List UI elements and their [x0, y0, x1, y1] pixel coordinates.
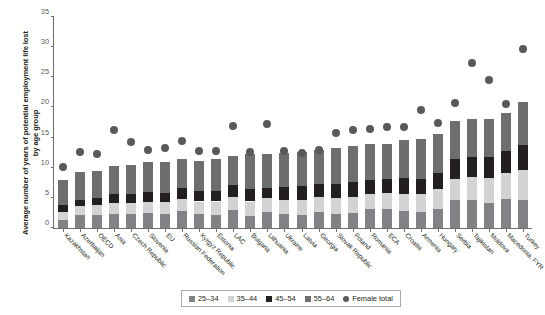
- bar-segment-55-64[interactable]: [348, 146, 358, 182]
- bar-segment-45-54[interactable]: [484, 157, 494, 177]
- bar-column[interactable]: Croatia: [395, 17, 412, 228]
- female-total-marker[interactable]: [366, 125, 374, 133]
- bar-segment-35-44[interactable]: [92, 205, 102, 215]
- bar-column[interactable]: Tajikistan: [464, 17, 481, 228]
- bar-segment-25-34[interactable]: [211, 215, 221, 228]
- bar-segment-25-34[interactable]: [228, 210, 238, 228]
- female-total-marker[interactable]: [400, 123, 408, 131]
- bar-segment-35-44[interactable]: [262, 198, 272, 211]
- bar-segment-45-54[interactable]: [58, 205, 68, 212]
- female-total-marker[interactable]: [383, 123, 391, 131]
- bar-segment-55-64[interactable]: [399, 140, 409, 178]
- female-total-marker[interactable]: [263, 120, 271, 128]
- bar-segment-25-34[interactable]: [75, 215, 85, 228]
- female-total-marker[interactable]: [502, 100, 510, 108]
- bar-segment-35-44[interactable]: [211, 202, 221, 215]
- female-total-marker[interactable]: [195, 147, 203, 155]
- bar-segment-45-54[interactable]: [416, 179, 426, 195]
- bar-segment-55-64[interactable]: [450, 121, 460, 159]
- bar-column[interactable]: Poland: [344, 17, 361, 228]
- bar-column[interactable]: Kazakhstan: [54, 17, 71, 228]
- female-total-marker[interactable]: [315, 146, 323, 154]
- female-total-marker[interactable]: [110, 126, 118, 134]
- bar-segment-55-64[interactable]: [416, 139, 426, 179]
- bar-column[interactable]: EU: [156, 17, 173, 228]
- bar-segment-35-44[interactable]: [297, 200, 307, 215]
- bar-segment-25-34[interactable]: [416, 212, 426, 228]
- stacked-bar[interactable]: [399, 140, 409, 228]
- bar-column[interactable]: Hungary: [430, 17, 447, 228]
- bar-column[interactable]: Slovenia: [139, 17, 156, 228]
- bar-segment-45-54[interactable]: [450, 159, 460, 178]
- bar-segment-35-44[interactable]: [109, 203, 119, 213]
- bar-segment-45-54[interactable]: [365, 180, 375, 193]
- bar-column[interactable]: Estonia: [208, 17, 225, 228]
- female-total-marker[interactable]: [229, 122, 237, 130]
- stacked-bar[interactable]: [245, 154, 255, 228]
- bar-segment-25-34[interactable]: [501, 199, 511, 228]
- female-total-marker[interactable]: [451, 99, 459, 107]
- bar-segment-35-44[interactable]: [501, 173, 511, 200]
- bar-segment-45-54[interactable]: [297, 186, 307, 200]
- female-total-marker[interactable]: [485, 76, 493, 84]
- bar-segment-35-44[interactable]: [416, 194, 426, 212]
- bar-segment-25-34[interactable]: [297, 215, 307, 228]
- stacked-bar[interactable]: [211, 159, 221, 228]
- female-total-marker[interactable]: [144, 146, 152, 154]
- bar-segment-45-54[interactable]: [331, 184, 341, 198]
- bar-segment-35-44[interactable]: [433, 189, 443, 208]
- bar-segment-35-44[interactable]: [518, 170, 528, 200]
- bar-segment-55-64[interactable]: [262, 154, 272, 188]
- female-total-marker[interactable]: [332, 129, 340, 137]
- bar-segment-55-64[interactable]: [194, 161, 204, 192]
- bar-segment-55-64[interactable]: [211, 159, 221, 191]
- stacked-bar[interactable]: [348, 146, 358, 228]
- bar-segment-25-34[interactable]: [92, 215, 102, 228]
- bar-segment-35-44[interactable]: [194, 202, 204, 214]
- bar-segment-35-44[interactable]: [314, 197, 324, 212]
- female-total-marker[interactable]: [468, 59, 476, 67]
- bar-segment-55-64[interactable]: [58, 180, 68, 205]
- bar-segment-25-34[interactable]: [331, 214, 341, 228]
- bar-segment-55-64[interactable]: [484, 119, 494, 158]
- bar-column[interactable]: Latvia: [293, 17, 310, 228]
- bar-column[interactable]: Turkey: [515, 17, 532, 228]
- bar-segment-35-44[interactable]: [331, 198, 341, 214]
- female-total-marker[interactable]: [93, 150, 101, 158]
- bar-segment-45-54[interactable]: [433, 173, 443, 190]
- stacked-bar[interactable]: [433, 134, 443, 228]
- legend-item[interactable]: 35–44: [228, 294, 258, 303]
- bar-segment-35-44[interactable]: [348, 197, 358, 213]
- female-total-marker[interactable]: [519, 45, 527, 53]
- bar-segment-25-34[interactable]: [484, 203, 494, 228]
- bar-segment-45-54[interactable]: [314, 184, 324, 197]
- bar-segment-35-44[interactable]: [399, 194, 409, 211]
- stacked-bar[interactable]: [143, 162, 153, 228]
- bar-segment-35-44[interactable]: [245, 202, 255, 216]
- bar-column[interactable]: Serbia: [447, 17, 464, 228]
- bar-segment-55-64[interactable]: [143, 162, 153, 192]
- female-total-marker[interactable]: [127, 138, 135, 146]
- bar-segment-45-54[interactable]: [126, 194, 136, 202]
- stacked-bar[interactable]: [109, 166, 119, 228]
- bar-segment-45-54[interactable]: [92, 198, 102, 205]
- bar-segment-25-34[interactable]: [262, 212, 272, 228]
- stacked-bar[interactable]: [279, 153, 289, 228]
- bar-segment-25-34[interactable]: [194, 214, 204, 228]
- bar-column[interactable]: Asia: [105, 17, 122, 228]
- bar-segment-55-64[interactable]: [433, 134, 443, 173]
- stacked-bar[interactable]: [365, 144, 375, 228]
- bar-segment-45-54[interactable]: [177, 188, 187, 199]
- bar-segment-25-34[interactable]: [126, 214, 136, 228]
- stacked-bar[interactable]: [450, 121, 460, 228]
- stacked-bar[interactable]: [382, 144, 392, 228]
- female-total-marker[interactable]: [161, 144, 169, 152]
- bar-segment-25-34[interactable]: [382, 209, 392, 228]
- bar-segment-25-34[interactable]: [450, 200, 460, 228]
- bar-segment-55-64[interactable]: [467, 119, 477, 158]
- legend-item[interactable]: 45–54: [266, 294, 296, 303]
- bar-segment-35-44[interactable]: [279, 200, 289, 214]
- stacked-bar[interactable]: [518, 102, 528, 228]
- bar-column[interactable]: Romania: [361, 17, 378, 228]
- bar-segment-55-64[interactable]: [365, 144, 375, 180]
